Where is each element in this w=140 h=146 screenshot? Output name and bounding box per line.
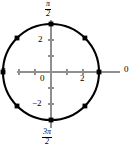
fraction-denominator: 2 (45, 10, 51, 18)
fraction-3pi-over-2: 3π 2 (42, 128, 52, 146)
data-point-theta-225 (15, 104, 20, 109)
y-tick-label-2: 2 (38, 34, 43, 44)
polar-angle-label-bottom: 3π 2 (42, 128, 52, 146)
fraction-pi-over-2: π 2 (45, 0, 51, 18)
polar-angle-label-right: 0 (124, 65, 129, 74)
fraction-numerator: π (45, 0, 51, 8)
y-tick-label-neg2: −2 (32, 98, 42, 108)
polar-angle-label-top: π 2 (45, 0, 51, 19)
fraction-denominator: 2 (42, 138, 52, 146)
data-point-theta-0 (97, 70, 102, 75)
data-point-theta-90 (49, 22, 54, 27)
axes-group (17, 20, 120, 128)
polar-plot-figure: 0 π π 2 3π 2 0 2 2 −2 (0, 0, 140, 146)
x-tick-label-0: 0 (40, 73, 45, 83)
data-point-theta-45 (83, 36, 88, 41)
data-point-theta-270 (49, 118, 54, 123)
data-point-theta-135 (15, 36, 20, 41)
plot-canvas (0, 0, 140, 146)
polar-angle-label-left: π (1, 65, 6, 74)
data-point-theta-315 (83, 104, 88, 109)
x-tick-label-2: 2 (80, 73, 85, 83)
fraction-numerator: 3π (42, 128, 52, 136)
